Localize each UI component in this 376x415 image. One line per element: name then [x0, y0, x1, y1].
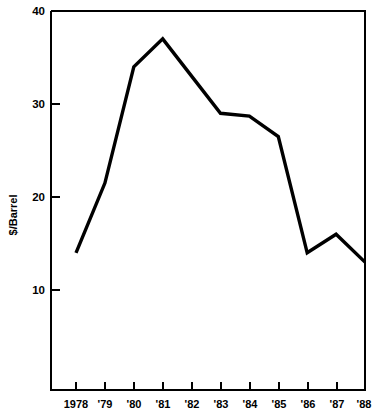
- x-tick-label-1979: '79: [98, 398, 113, 410]
- x-tick-label-1985: '85: [272, 398, 287, 410]
- x-tick-label-1984: '84: [243, 398, 259, 410]
- y-tick-label-30: 30: [32, 98, 45, 110]
- x-tick-label-1982: '82: [185, 398, 200, 410]
- x-tick-label-1980: '80: [127, 398, 142, 410]
- line-chart: 40 30 20 10 $/Barrel 1978 '79 '80 '81: [0, 0, 376, 415]
- x-tick-label-1978: 1978: [64, 398, 88, 410]
- x-tick-label-1987: '87: [330, 398, 345, 410]
- y-tick-label-20: 20: [32, 191, 45, 203]
- y-tick-label-40: 40: [32, 5, 45, 17]
- y-axis-title: $/Barrel: [7, 195, 19, 236]
- chart-container: 40 30 20 10 $/Barrel 1978 '79 '80 '81: [0, 0, 376, 415]
- y-tick-label-10: 10: [32, 284, 45, 296]
- x-tick-label-1988: '88: [357, 398, 372, 410]
- x-tick-label-1981: '81: [156, 398, 171, 410]
- x-tick-label-1986: '86: [301, 398, 316, 410]
- chart-background: [0, 0, 376, 415]
- x-tick-label-1983: '83: [214, 398, 229, 410]
